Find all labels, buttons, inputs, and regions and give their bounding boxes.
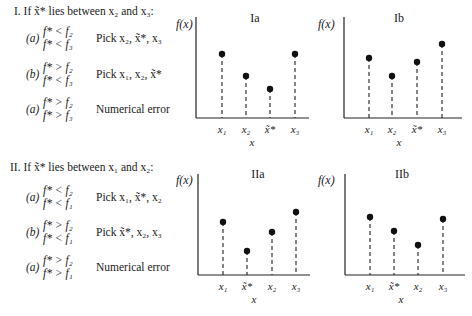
plot-ib: Ib f(x) x₁ x₂ x̃* x₃ x [318, 11, 462, 148]
data-point [267, 86, 273, 92]
plot-title: IIb [395, 167, 409, 181]
y-axis-label: f(x) [318, 17, 335, 31]
data-point [440, 216, 446, 222]
data-point [439, 41, 445, 47]
data-point [389, 73, 395, 79]
data-point [220, 219, 226, 225]
data-point [366, 55, 372, 61]
tick-label: x̃* [411, 123, 423, 135]
data-point [414, 59, 420, 65]
plot-ia: Ia f(x) x₁ x₂ x̃* x₃ x [176, 11, 309, 148]
tick-label: x̃* [264, 123, 276, 135]
tick-label: x₂ [267, 280, 277, 292]
data-point [391, 228, 397, 234]
x-axis-label: x [251, 293, 257, 305]
tick-label: x₁ [365, 280, 375, 292]
plot-iia: IIa f(x) x₁ x̃* x₂ x₃ x [176, 167, 310, 305]
plot-title: Ib [394, 11, 404, 25]
tick-label: x₂ [387, 123, 397, 135]
data-point [269, 229, 275, 235]
plot-title: Ia [250, 11, 260, 25]
tick-label: x₃ [291, 280, 301, 292]
data-point [292, 51, 298, 57]
y-axis-label: f(x) [176, 173, 193, 187]
plots-canvas: Ia f(x) x₁ x₂ x̃* x₃ x Ib f(x) [0, 0, 472, 316]
data-point [415, 242, 421, 248]
data-point [244, 248, 250, 254]
y-axis-label: f(x) [318, 173, 335, 187]
data-point [243, 73, 249, 79]
tick-label: x₁ [218, 280, 228, 292]
tick-label: x̃* [241, 280, 253, 292]
tick-label: x₁ [364, 123, 374, 135]
tick-label: x₃ [438, 280, 448, 292]
tick-label: x₃ [290, 123, 300, 135]
x-axis-label: x [398, 293, 404, 305]
data-point [293, 209, 299, 215]
x-axis-label: x [249, 136, 255, 148]
data-point [219, 51, 225, 57]
tick-label: x̃* [388, 280, 400, 292]
tick-label: x₁ [217, 123, 227, 135]
tick-label: x₂ [413, 280, 423, 292]
plot-iib: IIb f(x) x₁ x̃* x₂ x₃ x [318, 167, 465, 305]
y-axis-label: f(x) [176, 17, 193, 31]
tick-label: x₂ [241, 123, 251, 135]
plot-title: IIa [251, 167, 265, 181]
tick-label: x₃ [437, 123, 447, 135]
data-point [367, 214, 373, 220]
x-axis-label: x [396, 136, 402, 148]
